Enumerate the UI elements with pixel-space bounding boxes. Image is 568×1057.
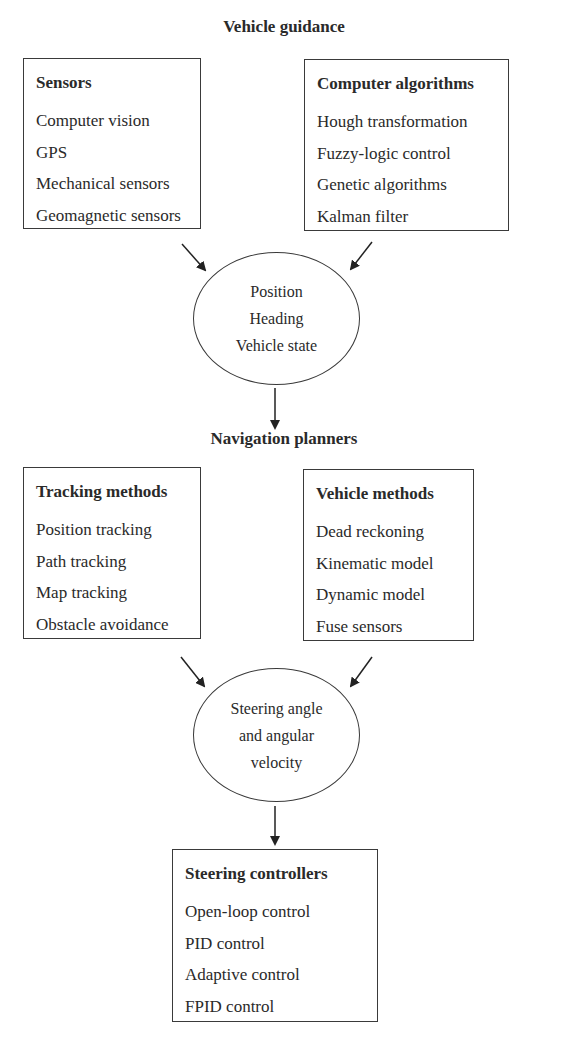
algorithms-heading: Computer algorithms <box>317 74 508 94</box>
vehicle-methods-item: Kinematic model <box>316 548 473 580</box>
sensors-heading: Sensors <box>36 73 200 93</box>
algorithms-item: Fuzzy-logic control <box>317 138 508 170</box>
tracking-item: Position tracking <box>36 514 200 546</box>
vehicle-methods-item: Fuse sensors <box>316 611 473 643</box>
vehicle-methods-item: Dead reckoning <box>316 516 473 548</box>
sensors-item: GPS <box>36 137 200 169</box>
sensors-item: Computer vision <box>36 105 200 137</box>
controllers-item: Open-loop control <box>185 896 377 928</box>
controllers-heading: Steering controllers <box>185 864 377 884</box>
state-line: Vehicle state <box>236 332 317 359</box>
vehicle-state-node: Position Heading Vehicle state <box>193 252 360 385</box>
algorithms-item: Hough transformation <box>317 106 508 138</box>
state-line: Heading <box>249 305 303 332</box>
algorithms-item: Genetic algorithms <box>317 169 508 201</box>
computer-algorithms-box: Computer algorithms Hough transformation… <box>304 59 509 231</box>
vehicle-methods-item: Dynamic model <box>316 579 473 611</box>
sensors-box: Sensors Computer vision GPS Mechanical s… <box>23 58 201 229</box>
tracking-item: Path tracking <box>36 546 200 578</box>
controllers-item: FPID control <box>185 991 377 1023</box>
vehicle-methods-box: Vehicle methods Dead reckoning Kinematic… <box>303 469 474 641</box>
controllers-item: Adaptive control <box>185 959 377 991</box>
state-line: Position <box>250 278 302 305</box>
sensors-item: Mechanical sensors <box>36 168 200 200</box>
tracking-item: Obstacle avoidance <box>36 609 200 641</box>
tracking-heading: Tracking methods <box>36 482 200 502</box>
tracking-methods-box: Tracking methods Position tracking Path … <box>23 467 201 639</box>
steering-angle-node: Steering angle and angular velocity <box>193 668 360 802</box>
steering-line: Steering angle <box>231 695 323 722</box>
algorithms-item: Kalman filter <box>317 201 508 233</box>
steering-line: velocity <box>251 749 303 776</box>
tracking-item: Map tracking <box>36 577 200 609</box>
sensors-item: Geomagnetic sensors <box>36 200 200 232</box>
controllers-item: PID control <box>185 928 377 960</box>
navigation-planners-title: Navigation planners <box>0 429 568 449</box>
steering-line: and angular <box>239 722 314 749</box>
vehicle-guidance-title: Vehicle guidance <box>0 17 568 37</box>
vehicle-methods-heading: Vehicle methods <box>316 484 473 504</box>
steering-controllers-box: Steering controllers Open-loop control P… <box>172 849 378 1022</box>
